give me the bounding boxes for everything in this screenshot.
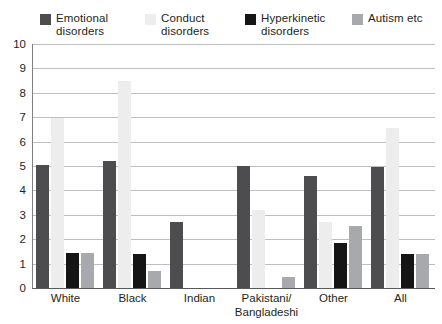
bar <box>170 222 183 288</box>
bar-chart: Emotional disorders Conduct disorders Hy… <box>0 0 442 324</box>
bar <box>252 210 265 288</box>
bar <box>334 243 347 288</box>
y-axis-tick-label: 10 <box>13 38 26 50</box>
bar-group <box>234 44 301 288</box>
x-axis-tick-label: Pakistani/ Bangladeshi <box>233 292 300 319</box>
y-axis-tick-label: 3 <box>20 209 26 221</box>
bar <box>148 271 161 288</box>
bar-group <box>33 44 100 288</box>
bar <box>319 222 332 288</box>
legend-label-conduct-disorders: Conduct disorders <box>161 12 209 37</box>
x-axis-tick-label: White <box>32 292 99 306</box>
bar <box>51 118 64 288</box>
bar <box>282 277 295 288</box>
bar-group <box>100 44 167 288</box>
y-axis-tick-label: 1 <box>20 258 26 270</box>
x-axis-labels: WhiteBlackIndianPakistani/ BangladeshiOt… <box>32 292 434 324</box>
y-axis-tick-label: 5 <box>20 160 26 172</box>
bar-group <box>368 44 435 288</box>
bar-series-container <box>33 44 435 288</box>
legend-swatch-hyperkinetic-disorders <box>245 14 256 25</box>
bar <box>416 254 429 288</box>
y-axis-tick-label: 0 <box>20 282 26 294</box>
x-axis-tick-label: Other <box>300 292 367 306</box>
bar <box>349 226 362 288</box>
x-axis-tick-label: All <box>367 292 434 306</box>
legend-item-hyperkinetic-disorders: Hyperkinetic disorders <box>245 12 325 37</box>
bar <box>36 165 49 288</box>
bar <box>133 254 146 288</box>
plot-area: 012345678910 <box>32 44 435 289</box>
bar <box>118 81 131 288</box>
bar <box>81 253 94 288</box>
y-axis-tick-label: 7 <box>20 111 26 123</box>
y-axis-tick-label: 9 <box>20 62 26 74</box>
legend-item-autism-etc: Autism etc <box>352 12 423 25</box>
legend-label-hyperkinetic-disorders: Hyperkinetic disorders <box>261 12 325 37</box>
y-axis-tick-label: 6 <box>20 136 26 148</box>
legend-label-autism-etc: Autism etc <box>368 12 423 25</box>
bar <box>66 253 79 288</box>
bar <box>103 161 116 288</box>
bar <box>304 176 317 288</box>
bar <box>371 167 384 288</box>
x-axis-tick-label: Indian <box>166 292 233 306</box>
bar-group <box>301 44 368 288</box>
legend-item-emotional-disorders: Emotional disorders <box>40 12 108 37</box>
bar <box>386 128 399 288</box>
chart-legend: Emotional disorders Conduct disorders Hy… <box>0 12 442 40</box>
legend-label-emotional-disorders: Emotional disorders <box>56 12 108 37</box>
legend-swatch-emotional-disorders <box>40 14 51 25</box>
legend-swatch-conduct-disorders <box>145 14 156 25</box>
x-axis-tick-label: Black <box>99 292 166 306</box>
legend-item-conduct-disorders: Conduct disorders <box>145 12 209 37</box>
legend-swatch-autism-etc <box>352 14 363 25</box>
bar <box>237 166 250 288</box>
y-axis-tick-label: 4 <box>20 184 26 196</box>
y-axis-tick-label: 2 <box>20 233 26 245</box>
y-axis-tick-label: 8 <box>20 87 26 99</box>
bar <box>401 254 414 288</box>
bar-group <box>167 44 234 288</box>
